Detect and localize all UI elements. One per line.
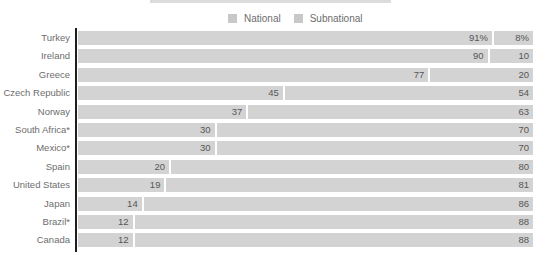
bar-subnational: 20 <box>430 68 533 82</box>
national-value: 45 <box>268 86 279 100</box>
bar-subnational: 88 <box>135 233 533 247</box>
national-value: 91% <box>469 31 488 45</box>
category-label: United States <box>0 178 70 192</box>
national-value: 90 <box>473 49 484 63</box>
subnational-value: 20 <box>518 68 529 82</box>
bar-track: 37 63 <box>78 105 533 119</box>
national-value: 20 <box>154 160 165 174</box>
subnational-value: 54 <box>518 86 529 100</box>
bar-subnational: 81 <box>166 178 533 192</box>
bar-subnational: 70 <box>217 141 534 155</box>
bar-row: South Africa* 30 70 <box>0 123 539 137</box>
legend-item-subnational: Subnational <box>294 13 363 24</box>
bar-row: Japan 14 86 <box>0 197 539 211</box>
bar-subnational: 8% <box>494 31 533 45</box>
bar-track: 45 54 <box>78 86 533 100</box>
bar-subnational: 88 <box>135 215 533 229</box>
bar-track: 30 70 <box>78 141 533 155</box>
subnational-value: 10 <box>518 49 529 63</box>
subnational-value: 8% <box>515 31 529 45</box>
bar-subnational: 70 <box>217 123 534 137</box>
bar-track: 77 20 <box>78 68 533 82</box>
subnational-value: 70 <box>518 123 529 137</box>
bar-row: Canada 12 88 <box>0 233 539 247</box>
bar-national: 20 <box>78 160 169 174</box>
bar-track: 14 86 <box>78 197 533 211</box>
bar-track: 91% 8% <box>78 31 533 45</box>
national-value: 77 <box>414 68 425 82</box>
bar-row: Mexico* 30 70 <box>0 141 539 155</box>
bar-national: 37 <box>78 105 246 119</box>
national-value: 14 <box>127 197 138 211</box>
national-value: 30 <box>200 123 211 137</box>
bar-row: Brazil* 12 88 <box>0 215 539 229</box>
national-value: 19 <box>150 178 161 192</box>
bar-row: Greece 77 20 <box>0 68 539 82</box>
bar-national: 30 <box>78 123 215 137</box>
bar-rows: Turkey 91% 8% Ireland 90 10 Greece 77 <box>0 31 539 252</box>
category-label: Mexico* <box>0 141 70 155</box>
bar-subnational: 86 <box>144 197 533 211</box>
bar-track: 12 88 <box>78 233 533 247</box>
legend: National Subnational <box>228 12 363 24</box>
national-value: 30 <box>200 141 211 155</box>
category-label: Ireland <box>0 49 70 63</box>
bar-track: 19 81 <box>78 178 533 192</box>
legend-swatch-subnational-icon <box>294 14 303 23</box>
bar-row: Spain 20 80 <box>0 160 539 174</box>
legend-swatch-national-icon <box>228 14 237 23</box>
subnational-value: 86 <box>518 197 529 211</box>
bar-subnational: 63 <box>248 105 533 119</box>
bar-subnational: 80 <box>171 160 533 174</box>
bar-track: 90 10 <box>78 49 533 63</box>
bar-row: Ireland 90 10 <box>0 49 539 63</box>
subnational-value: 63 <box>518 105 529 119</box>
subnational-value: 80 <box>518 160 529 174</box>
bar-national: 12 <box>78 233 133 247</box>
subnational-value: 81 <box>518 178 529 192</box>
bar-national: 77 <box>78 68 428 82</box>
category-label: Greece <box>0 68 70 82</box>
bar-national: 91% <box>78 31 492 45</box>
bar-subnational: 54 <box>285 86 533 100</box>
category-label: Norway <box>0 105 70 119</box>
category-label: Japan <box>0 197 70 211</box>
national-value: 37 <box>232 105 243 119</box>
bar-national: 19 <box>78 178 164 192</box>
legend-label-national: National <box>244 13 281 24</box>
category-label: Brazil* <box>0 215 70 229</box>
subnational-value: 88 <box>518 215 529 229</box>
bar-subnational: 10 <box>490 49 534 63</box>
bar-track: 12 88 <box>78 215 533 229</box>
bar-national: 30 <box>78 141 215 155</box>
legend-item-national: National <box>228 13 281 24</box>
national-value: 12 <box>118 215 129 229</box>
cropped-title-strip <box>150 0 391 3</box>
subnational-value: 70 <box>518 141 529 155</box>
bar-national: 14 <box>78 197 142 211</box>
bar-row: Norway 37 63 <box>0 105 539 119</box>
bar-row: Czech Republic 45 54 <box>0 86 539 100</box>
category-label: South Africa* <box>0 123 70 137</box>
bar-national: 45 <box>78 86 283 100</box>
category-label: Canada <box>0 233 70 247</box>
category-label: Czech Republic <box>0 86 70 100</box>
bar-national: 12 <box>78 215 133 229</box>
bar-track: 20 80 <box>78 160 533 174</box>
legend-label-subnational: Subnational <box>310 13 363 24</box>
bar-track: 30 70 <box>78 123 533 137</box>
bar-national: 90 <box>78 49 488 63</box>
category-label: Spain <box>0 160 70 174</box>
subnational-value: 88 <box>518 233 529 247</box>
bar-row: Turkey 91% 8% <box>0 31 539 45</box>
bar-row: United States 19 81 <box>0 178 539 192</box>
category-label: Turkey <box>0 31 70 45</box>
national-value: 12 <box>118 233 129 247</box>
